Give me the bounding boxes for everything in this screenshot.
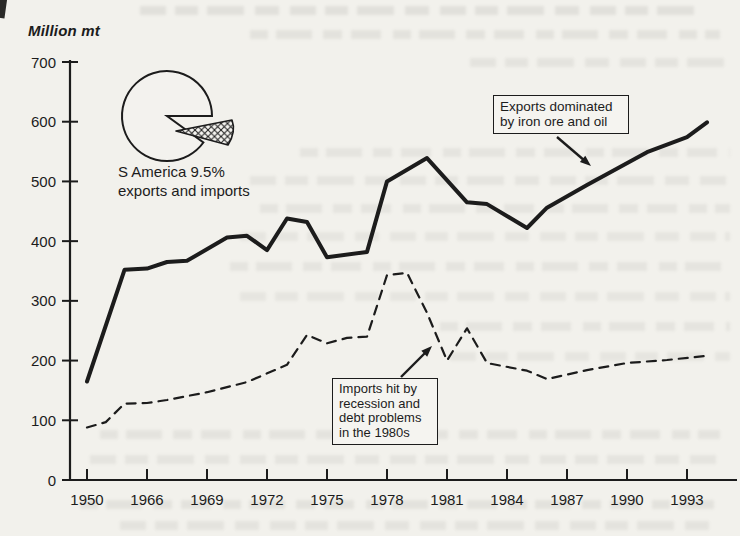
pie-inset bbox=[122, 71, 233, 161]
x-tick-label: 1975 bbox=[310, 491, 343, 508]
x-tick-label: 1984 bbox=[490, 491, 523, 508]
x-tick-label: 1987 bbox=[550, 491, 583, 508]
x-tick-label: 1981 bbox=[430, 491, 463, 508]
pie-circle bbox=[122, 71, 212, 161]
y-tick-label: 200 bbox=[31, 352, 56, 369]
pie-inset-label: S America 9.5% exports and imports bbox=[118, 162, 250, 200]
y-tick-label: 0 bbox=[48, 472, 56, 489]
x-tick-label: 1966 bbox=[130, 491, 163, 508]
x-tick-label: 1969 bbox=[190, 491, 223, 508]
x-tick-label: 1993 bbox=[670, 491, 703, 508]
y-tick-label: 100 bbox=[31, 412, 56, 429]
imports-annotation-box: Imports hit by recession and debt proble… bbox=[332, 378, 438, 445]
x-tick-label: 1950 bbox=[70, 491, 103, 508]
x-axis-ticks: 1950196619691972197519781981198419871990… bbox=[70, 469, 703, 508]
x-tick-label: 1978 bbox=[370, 491, 403, 508]
y-tick-label: 700 bbox=[31, 54, 56, 71]
x-tick-label: 1972 bbox=[250, 491, 283, 508]
x-tick-label: 1990 bbox=[610, 491, 643, 508]
y-tick-label: 600 bbox=[31, 113, 56, 130]
scanned-book-page: 0100200300400500600700 19501966196919721… bbox=[0, 0, 740, 536]
y-tick-label: 500 bbox=[31, 173, 56, 190]
exports-annotation-arrow bbox=[557, 137, 591, 166]
y-tick-label: 400 bbox=[31, 233, 56, 250]
imports-annotation-arrow bbox=[401, 346, 432, 377]
y-axis-title: Million mt bbox=[28, 22, 100, 39]
y-tick-label: 300 bbox=[31, 292, 56, 309]
exports-annotation-box: Exports dominated by iron ore and oil bbox=[493, 95, 629, 134]
trade-volume-line-chart: 0100200300400500600700 19501966196919721… bbox=[0, 0, 740, 536]
